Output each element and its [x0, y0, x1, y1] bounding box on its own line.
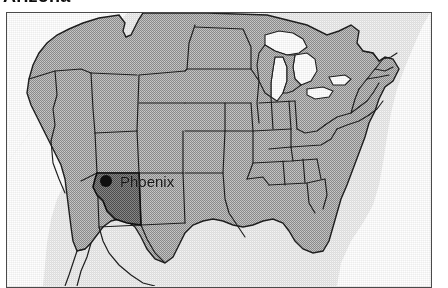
page-title: Arizona [3, 0, 70, 5]
united-states-map [7, 13, 430, 286]
city-dot-icon [100, 175, 112, 187]
map-frame: Phoenix [6, 12, 432, 288]
city-label-phoenix: Phoenix [120, 174, 174, 189]
